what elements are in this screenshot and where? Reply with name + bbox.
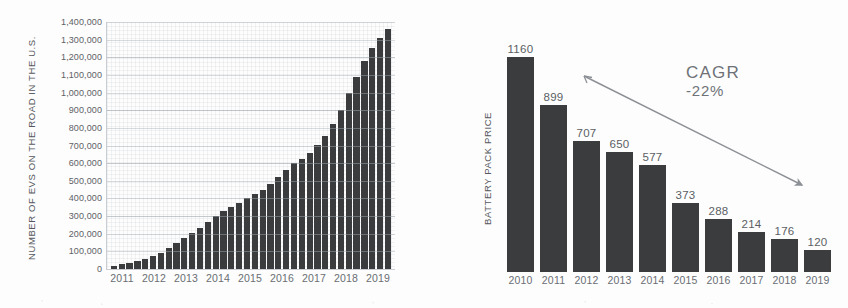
- ev-gridline: [107, 57, 395, 58]
- ev-x-tick-label: 2012: [138, 272, 170, 292]
- ev-x-tick-label: 2017: [298, 272, 330, 292]
- battery-bar: [573, 141, 600, 272]
- ev-bar: [126, 263, 132, 269]
- scan-artifact-speckle: [0, 290, 848, 308]
- ev-gridline: [107, 216, 395, 217]
- battery-bar-value-label: 288: [708, 205, 728, 217]
- ev-y-tick-label: 200,000: [69, 229, 102, 239]
- battery-bar-column: 120: [804, 24, 831, 272]
- ev-x-tick-label: 2016: [266, 272, 298, 292]
- ev-y-tick-label: 1,400,000: [61, 17, 102, 27]
- battery-bar-value-label: 707: [576, 127, 596, 139]
- ev-bar: [158, 253, 164, 269]
- battery-bar-value-label: 899: [543, 91, 563, 103]
- battery-bar: [804, 250, 831, 272]
- battery-bar-value-label: 120: [807, 236, 827, 248]
- infographic-figure: NUMBER OF EVS ON THE ROAD IN THE U.S. 1,…: [0, 0, 848, 308]
- ev-y-tick-label: 900,000: [69, 105, 102, 115]
- ev-bar: [134, 261, 140, 269]
- battery-bar-value-label: 373: [675, 189, 695, 201]
- ev-plot-area: [106, 22, 395, 270]
- ev-x-tick-label: 2018: [330, 272, 362, 292]
- battery-bar-series: 1160899707650577373288214176120: [504, 24, 834, 272]
- battery-bar-column: 373: [672, 24, 699, 272]
- battery-bar: [540, 105, 567, 272]
- ev-bar: [150, 256, 156, 269]
- battery-bar: [507, 57, 534, 272]
- ev-y-tick-label: 100,000: [69, 246, 102, 256]
- ev-gridline: [107, 198, 395, 199]
- ev-y-tick-label: 500,000: [69, 176, 102, 186]
- chart-battery-pack-price: BATTERY PACK PRICE 116089970765057737328…: [424, 0, 848, 308]
- battery-plot-area: 1160899707650577373288214176120: [504, 24, 834, 272]
- ev-y-axis-title: NUMBER OF EVS ON THE ROAD IN THE U.S.: [26, 14, 37, 282]
- cagr-label: CAGR: [686, 64, 740, 82]
- ev-gridline: [107, 110, 395, 111]
- battery-bar-value-label: 577: [642, 151, 662, 163]
- ev-y-tick-label: 1,100,000: [61, 70, 102, 80]
- battery-bar-value-label: 1160: [508, 43, 534, 55]
- ev-x-tick-label: 2019: [362, 272, 394, 292]
- battery-bar: [639, 165, 666, 272]
- ev-bar: [338, 110, 344, 269]
- ev-bar: [283, 170, 289, 269]
- battery-bar-column: 176: [771, 24, 798, 272]
- ev-x-tick-label: 2014: [202, 272, 234, 292]
- ev-bar: [260, 190, 266, 269]
- battery-bar-column: 650: [606, 24, 633, 272]
- battery-bar-value-label: 214: [741, 218, 761, 230]
- ev-gridline: [107, 146, 395, 147]
- ev-bar: [173, 243, 179, 269]
- battery-bar: [771, 239, 798, 272]
- battery-bar-column: 707: [573, 24, 600, 272]
- battery-bar: [672, 203, 699, 272]
- ev-bar: [267, 184, 273, 269]
- ev-x-tick-label: 2011: [106, 272, 138, 292]
- battery-y-axis-title: BATTERY PACK PRICE: [482, 88, 493, 248]
- ev-gridline: [107, 93, 395, 94]
- ev-y-tick-label: 700,000: [69, 141, 102, 151]
- battery-bar: [738, 232, 765, 272]
- cagr-value: -22%: [686, 82, 740, 101]
- battery-bar-column: 1160: [507, 24, 534, 272]
- ev-y-tick-label: 600,000: [69, 158, 102, 168]
- ev-x-tick-label: 2015: [234, 272, 266, 292]
- ev-gridline: [107, 22, 395, 23]
- ev-bar: [181, 238, 187, 269]
- battery-bar-column: 577: [639, 24, 666, 272]
- ev-y-tick-label: 400,000: [69, 193, 102, 203]
- ev-bar: [205, 222, 211, 269]
- ev-y-tick-label: 800,000: [69, 123, 102, 133]
- ev-gridline: [107, 128, 395, 129]
- ev-gridline: [107, 75, 395, 76]
- battery-bar: [705, 219, 732, 272]
- ev-y-tick-label: 1,200,000: [61, 52, 102, 62]
- ev-gridline: [107, 234, 395, 235]
- ev-y-tick-label: 300,000: [69, 211, 102, 221]
- battery-bar-column: 288: [705, 24, 732, 272]
- battery-bar-column: 214: [738, 24, 765, 272]
- ev-x-axis-labels: 201120122013201420152016201720182019: [106, 272, 394, 292]
- ev-bar: [369, 48, 375, 269]
- battery-bar: [606, 152, 633, 272]
- battery-bar-column: 899: [540, 24, 567, 272]
- ev-bar: [213, 216, 219, 269]
- ev-gridline: [107, 181, 395, 182]
- ev-bar: [275, 177, 281, 269]
- ev-bar: [252, 194, 258, 269]
- ev-bar: [322, 136, 328, 269]
- ev-y-tick-label: 1,000,000: [61, 88, 102, 98]
- ev-x-tick-label: 2013: [170, 272, 202, 292]
- cagr-annotation: CAGR -22%: [686, 64, 740, 101]
- battery-bar-value-label: 650: [609, 138, 629, 150]
- ev-y-tick-label: 1,300,000: [61, 35, 102, 45]
- ev-gridline: [107, 163, 395, 164]
- ev-bar: [353, 77, 359, 269]
- ev-bar: [299, 159, 305, 269]
- ev-bar: [236, 203, 242, 269]
- ev-gridline: [107, 40, 395, 41]
- ev-bar: [220, 211, 226, 269]
- ev-bar: [119, 264, 125, 269]
- chart-ev-on-road: NUMBER OF EVS ON THE ROAD IN THE U.S. 1,…: [0, 0, 424, 308]
- battery-bar-value-label: 176: [774, 225, 794, 237]
